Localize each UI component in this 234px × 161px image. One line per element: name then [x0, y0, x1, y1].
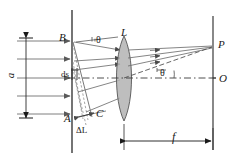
- label-axis-point: O: [219, 73, 227, 84]
- diffracted-rays: [74, 42, 120, 112]
- wavefront-construction: [73, 44, 88, 125]
- optics-diffraction-diagram: a B ds A C ΔL θ L θ P O f: [0, 0, 234, 161]
- label-slit-bottom: A: [64, 113, 71, 124]
- converging-rays-to-P: [128, 46, 212, 66]
- label-element-width: ds: [61, 70, 69, 79]
- focal-length-dimension: [124, 124, 213, 150]
- label-angle-incident: θ: [96, 35, 101, 45]
- label-slit-top: B: [59, 32, 66, 43]
- label-lens: L: [121, 27, 127, 38]
- label-focal-length: f: [172, 131, 175, 143]
- diagram-canvas: [0, 0, 234, 161]
- label-path-point: C: [96, 108, 103, 119]
- chief-ray-dashed: [124, 47, 212, 78]
- converging-lens: [117, 36, 132, 121]
- label-angle-image: θ: [160, 68, 165, 78]
- label-focus-point: P: [218, 39, 225, 50]
- label-slit-width: a: [5, 73, 16, 79]
- label-path-difference: ΔL: [76, 126, 87, 135]
